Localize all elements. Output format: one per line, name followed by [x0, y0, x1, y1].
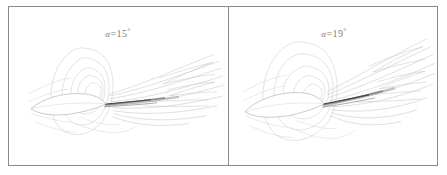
flowfield-alpha-15: [9, 7, 227, 165]
contour-group-lower-right: [291, 121, 355, 139]
shear-layer-left: [104, 97, 179, 107]
contour-group-wake-left: [109, 54, 224, 125]
airfoil-alpha-15: [31, 94, 106, 115]
panel-alpha-19: α=19°: [228, 7, 439, 165]
panel-alpha-15: α=15°: [9, 7, 227, 165]
contour-group-outer-left: [51, 48, 113, 135]
airfoil-alpha-19: [245, 93, 324, 118]
figure-root: α=15°: [0, 0, 447, 175]
figure-outer-frame: α=15°: [8, 6, 438, 166]
contour-group-outer-right: [263, 42, 337, 140]
flowfield-alpha-19: [229, 7, 439, 165]
contour-group-wake-detail-right: [355, 47, 427, 102]
contour-group-wake-right: [327, 39, 435, 125]
